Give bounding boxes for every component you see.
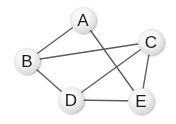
graph-diagram: ABCDE bbox=[0, 0, 176, 124]
node-label: E bbox=[135, 92, 146, 111]
node-label: B bbox=[21, 52, 32, 71]
node-b: B bbox=[15, 49, 40, 74]
node-label: C bbox=[145, 33, 157, 52]
node-label: A bbox=[77, 11, 89, 30]
edges-layer bbox=[27, 20, 151, 101]
node-e: E bbox=[129, 89, 154, 114]
node-d: D bbox=[59, 88, 84, 113]
node-a: A bbox=[71, 8, 96, 33]
edge-a-e bbox=[83, 20, 141, 101]
node-c: C bbox=[139, 30, 164, 55]
nodes-layer: ABCDE bbox=[15, 8, 164, 114]
edge-b-c bbox=[27, 42, 151, 61]
node-label: D bbox=[65, 91, 77, 110]
